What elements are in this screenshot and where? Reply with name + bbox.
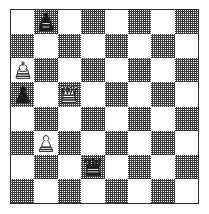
square-f5[interactable]	[128, 82, 151, 106]
square-c7[interactable]	[58, 34, 81, 58]
square-c1[interactable]	[58, 179, 81, 203]
square-d8[interactable]	[81, 10, 104, 34]
square-g5[interactable]	[151, 82, 174, 106]
square-b1[interactable]	[34, 179, 57, 203]
piece-white-queen-c5[interactable]	[59, 84, 80, 105]
square-d4[interactable]	[81, 107, 104, 131]
square-b2[interactable]	[34, 155, 57, 179]
square-b4[interactable]	[34, 107, 57, 131]
square-a3[interactable]	[11, 131, 34, 155]
square-f2[interactable]	[128, 155, 151, 179]
square-h6[interactable]	[175, 58, 198, 82]
square-e7[interactable]	[105, 34, 128, 58]
square-d6[interactable]	[81, 58, 104, 82]
black-pawn-icon	[12, 84, 33, 105]
square-a8[interactable]	[11, 10, 34, 34]
square-d5[interactable]	[81, 82, 104, 106]
square-f3[interactable]	[128, 131, 151, 155]
square-a6[interactable]	[11, 58, 34, 82]
square-g3[interactable]	[151, 131, 174, 155]
square-e3[interactable]	[105, 131, 128, 155]
chess-board[interactable]	[11, 10, 198, 203]
square-c4[interactable]	[58, 107, 81, 131]
square-d2[interactable]	[81, 155, 104, 179]
square-d7[interactable]	[81, 34, 104, 58]
square-c8[interactable]	[58, 10, 81, 34]
square-a2[interactable]	[11, 155, 34, 179]
square-c3[interactable]	[58, 131, 81, 155]
square-h4[interactable]	[175, 107, 198, 131]
square-h1[interactable]	[175, 179, 198, 203]
piece-black-queen-d2[interactable]	[82, 156, 103, 177]
square-d3[interactable]	[81, 131, 104, 155]
square-f4[interactable]	[128, 107, 151, 131]
square-h8[interactable]	[175, 10, 198, 34]
square-c2[interactable]	[58, 155, 81, 179]
square-e1[interactable]	[105, 179, 128, 203]
square-h3[interactable]	[175, 131, 198, 155]
square-g7[interactable]	[151, 34, 174, 58]
piece-black-king-b8[interactable]	[36, 12, 57, 33]
square-e8[interactable]	[105, 10, 128, 34]
square-h7[interactable]	[175, 34, 198, 58]
square-b8[interactable]	[34, 10, 57, 34]
black-king-icon	[36, 12, 57, 33]
square-b6[interactable]	[34, 58, 57, 82]
square-f8[interactable]	[128, 10, 151, 34]
square-e5[interactable]	[105, 82, 128, 106]
square-h2[interactable]	[175, 155, 198, 179]
square-e6[interactable]	[105, 58, 128, 82]
square-e2[interactable]	[105, 155, 128, 179]
square-b5[interactable]	[34, 82, 57, 106]
white-pawn-icon	[36, 132, 57, 153]
square-a1[interactable]	[11, 179, 34, 203]
square-g4[interactable]	[151, 107, 174, 131]
square-f6[interactable]	[128, 58, 151, 82]
piece-white-king-a6[interactable]	[12, 60, 33, 81]
piece-white-pawn-b3[interactable]	[36, 132, 57, 153]
square-c5[interactable]	[58, 82, 81, 106]
piece-black-pawn-a5[interactable]	[12, 84, 33, 105]
chess-diagram	[10, 9, 199, 204]
square-f7[interactable]	[128, 34, 151, 58]
square-h5[interactable]	[175, 82, 198, 106]
square-g6[interactable]	[151, 58, 174, 82]
square-e4[interactable]	[105, 107, 128, 131]
black-queen-icon	[82, 156, 103, 177]
square-c6[interactable]	[58, 58, 81, 82]
square-a7[interactable]	[11, 34, 34, 58]
white-queen-icon	[59, 84, 80, 105]
square-g1[interactable]	[151, 179, 174, 203]
square-g8[interactable]	[151, 10, 174, 34]
square-f1[interactable]	[128, 179, 151, 203]
square-a4[interactable]	[11, 107, 34, 131]
square-d1[interactable]	[81, 179, 104, 203]
square-b7[interactable]	[34, 34, 57, 58]
square-b3[interactable]	[34, 131, 57, 155]
white-king-icon	[12, 60, 33, 81]
square-a5[interactable]	[11, 82, 34, 106]
square-g2[interactable]	[151, 155, 174, 179]
